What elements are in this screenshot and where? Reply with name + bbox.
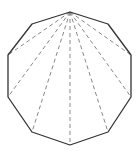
decagon-diagram: [0, 0, 139, 151]
diagonal-line: [70, 12, 131, 97]
diagonal-line: [8, 12, 70, 55]
diagonal-line: [8, 12, 70, 97]
diagonal-line: [70, 12, 108, 132]
diagonal-line: [32, 12, 70, 132]
diagonal-line: [70, 12, 131, 55]
